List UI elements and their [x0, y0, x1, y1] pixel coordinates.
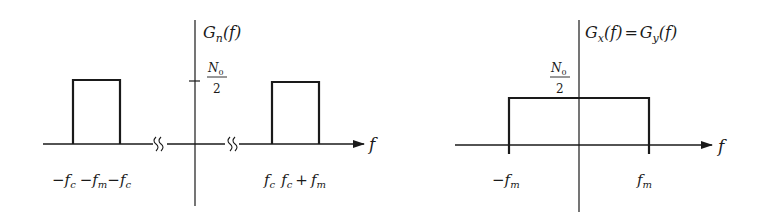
- pos-fm-label: fm: [636, 171, 652, 190]
- right-plot-baseband-psd: Gx(f)=Gy(f) N0 2 f −fm fm: [455, 20, 727, 212]
- left-y-label: Gn(f): [203, 23, 241, 45]
- svg-text:N0: N0: [550, 61, 567, 77]
- svg-text:N0: N0: [207, 61, 224, 77]
- right-x-label: f: [716, 136, 727, 156]
- left-plot-bandpass-noise-psd: Gn(f) N0 2 f −fc−fm−fc fcfc+fm: [43, 20, 378, 206]
- negative-band-rect: [73, 80, 120, 144]
- axis-break-icon: [228, 137, 237, 151]
- neg-fm-label: −fm: [492, 171, 520, 190]
- left-x-label: f: [367, 134, 378, 154]
- psd-diagram: Gn(f) N0 2 f −fc−fm−fc fcfc+fm Gx(f)=Gy(…: [0, 0, 761, 216]
- negative-band-labels: −fc−fm−fc: [52, 171, 131, 190]
- right-y-label: Gx(f)=Gy(f): [585, 23, 677, 45]
- positive-band-rect: [272, 82, 319, 144]
- left-level-label: N0 2: [207, 61, 227, 96]
- svg-text:2: 2: [213, 82, 221, 96]
- right-level-label: N0 2: [550, 61, 570, 96]
- svg-text:2: 2: [556, 82, 564, 96]
- positive-band-labels: fcfc+fm: [263, 171, 326, 190]
- axis-break-icon: [154, 137, 163, 151]
